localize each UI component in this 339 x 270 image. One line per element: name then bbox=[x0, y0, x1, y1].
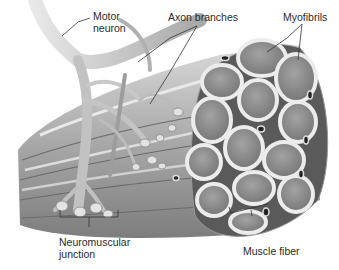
label-axon-branches: Axon branches bbox=[168, 11, 238, 23]
label-text: Motor bbox=[93, 10, 126, 22]
label-text: neuron bbox=[93, 22, 126, 34]
label-muscle-fiber: Muscle fiber bbox=[243, 245, 300, 257]
label-myofibrils: Myofibrils bbox=[283, 11, 327, 23]
label-text: Neuromuscular bbox=[59, 236, 130, 248]
label-text: junction bbox=[59, 248, 130, 260]
illustration bbox=[0, 0, 339, 270]
label-motor-neuron: Motor neuron bbox=[93, 10, 126, 34]
muscle-innervation-diagram: Motor neuron Axon branches Myofibrils Ne… bbox=[0, 0, 339, 270]
label-neuromuscular-junction: Neuromuscular junction bbox=[59, 236, 130, 260]
